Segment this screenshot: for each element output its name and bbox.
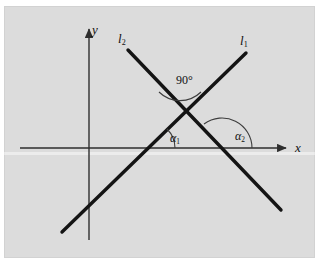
line-label-l2: l2 <box>118 32 126 47</box>
x-axis-label: x <box>295 141 301 154</box>
angle-label-right: 90° <box>176 74 193 86</box>
y-axis-label: y <box>92 23 98 36</box>
angle-label-alpha2: α2 <box>235 130 245 143</box>
line-label-l2-sub: 2 <box>122 38 126 47</box>
line-label-l1-sub: 1 <box>244 40 248 49</box>
angle-label-alpha1: α1 <box>170 132 180 145</box>
line-l2 <box>128 50 281 210</box>
angle-label-alpha2-sub: 2 <box>241 135 245 144</box>
geometry-figure: y x l2 l1 α1 α2 90° <box>0 0 319 268</box>
line-label-l1: l1 <box>240 34 248 49</box>
diagram-canvas <box>0 0 319 268</box>
angle-label-alpha1-sub: 1 <box>176 137 180 146</box>
angle-arc-right <box>159 92 201 101</box>
